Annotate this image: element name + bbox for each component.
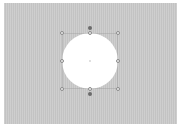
resize-handle-top-left[interactable] (60, 31, 64, 35)
resize-handle-bottom-right[interactable] (116, 87, 120, 91)
rotate-handle-top[interactable] (88, 26, 92, 30)
resize-handle-bottom[interactable] (88, 87, 92, 91)
resize-handle-top-right[interactable] (116, 31, 120, 35)
rotate-handle-bottom[interactable] (88, 92, 92, 96)
resize-handle-bottom-left[interactable] (60, 87, 64, 91)
shape-center-marker (89, 60, 91, 62)
resize-handle-left[interactable] (60, 59, 64, 63)
resize-handle-right[interactable] (116, 59, 120, 63)
resize-handle-top[interactable] (88, 31, 92, 35)
